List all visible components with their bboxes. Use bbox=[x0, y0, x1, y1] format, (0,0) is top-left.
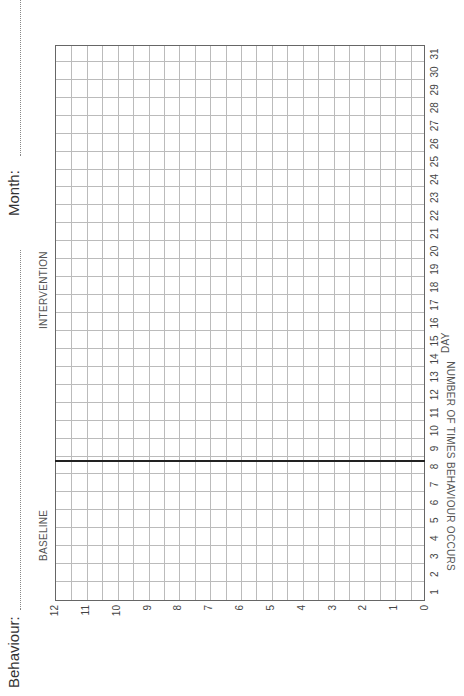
behaviour-chart-page: Behaviour: Month: BASELINE INTERVENTION … bbox=[0, 0, 464, 696]
grid-vline bbox=[56, 222, 424, 223]
grid-vline bbox=[56, 330, 424, 331]
grid-vline bbox=[56, 169, 424, 170]
behaviour-field[interactable] bbox=[20, 250, 21, 610]
grid-vline bbox=[56, 133, 424, 134]
x-tick-label: 21 bbox=[429, 224, 440, 242]
x-tick-label: 16 bbox=[429, 314, 440, 332]
chart-grid bbox=[55, 45, 425, 601]
x-tick-label: 29 bbox=[429, 81, 440, 99]
grid-hline bbox=[149, 46, 150, 600]
grid-vline bbox=[56, 473, 424, 474]
grid-hline bbox=[256, 46, 257, 600]
x-tick-label: 11 bbox=[429, 404, 440, 422]
grid-vline bbox=[56, 527, 424, 528]
grid-vline bbox=[56, 312, 424, 313]
grid-vline bbox=[56, 581, 424, 582]
x-tick-label: 20 bbox=[429, 242, 440, 260]
x-tick-label: 10 bbox=[429, 422, 440, 440]
grid-hline bbox=[287, 46, 288, 600]
y-tick-label: 10 bbox=[111, 605, 122, 621]
x-tick-label: 6 bbox=[429, 493, 440, 511]
grid-vline bbox=[56, 151, 424, 152]
grid-vline bbox=[56, 276, 424, 277]
month-label: Month: bbox=[5, 170, 22, 216]
grid-hline bbox=[179, 46, 180, 600]
y-tick-label: 8 bbox=[172, 605, 183, 621]
grid-vline bbox=[56, 240, 424, 241]
grid-hline bbox=[71, 46, 72, 600]
baseline-label: BASELINE bbox=[38, 510, 49, 561]
x-tick-label: 27 bbox=[429, 117, 440, 135]
grid-hline bbox=[303, 46, 304, 600]
grid-hline bbox=[411, 46, 412, 600]
grid-hline bbox=[102, 46, 103, 600]
grid-hline bbox=[87, 46, 88, 600]
grid-vline bbox=[56, 563, 424, 564]
x-tick-label: 28 bbox=[429, 99, 440, 117]
grid-hline bbox=[195, 46, 196, 600]
month-field[interactable] bbox=[20, 0, 21, 156]
grid-vline bbox=[56, 491, 424, 492]
grid-vline bbox=[56, 420, 424, 421]
y-axis-label: NUMBER OF TIMES BEHAVIOUR OCCURS bbox=[445, 361, 456, 571]
grid-vline bbox=[56, 456, 424, 457]
grid-vline bbox=[56, 79, 424, 80]
x-tick-label: 18 bbox=[429, 278, 440, 296]
phase-change-line bbox=[55, 460, 425, 462]
grid-hline bbox=[395, 46, 396, 600]
intervention-label: INTERVENTION bbox=[38, 251, 49, 329]
x-tick-label: 5 bbox=[429, 511, 440, 529]
grid-hline bbox=[364, 46, 365, 600]
grid-hline bbox=[241, 46, 242, 600]
grid-vline bbox=[56, 438, 424, 439]
x-tick-label: 12 bbox=[429, 386, 440, 404]
grid-vline bbox=[56, 97, 424, 98]
x-tick-label: 15 bbox=[429, 332, 440, 350]
grid-vline bbox=[56, 509, 424, 510]
y-tick-label: 2 bbox=[357, 605, 368, 621]
behaviour-label: Behaviour: bbox=[5, 616, 22, 688]
y-tick-label: 0 bbox=[419, 605, 430, 621]
x-tick-label: 26 bbox=[429, 135, 440, 153]
grid-hline bbox=[334, 46, 335, 600]
y-tick-label: 12 bbox=[49, 605, 60, 621]
grid-vline bbox=[56, 348, 424, 349]
x-tick-label: 30 bbox=[429, 63, 440, 81]
x-tick-label: 8 bbox=[429, 457, 440, 475]
grid-vline bbox=[56, 545, 424, 546]
grid-vline bbox=[56, 366, 424, 367]
x-tick-label: 4 bbox=[429, 529, 440, 547]
x-tick-label: 24 bbox=[429, 171, 440, 189]
grid-hline bbox=[133, 46, 134, 600]
x-tick-label: 31 bbox=[429, 45, 440, 63]
x-axis-label: DAY bbox=[440, 332, 451, 353]
x-tick-label: 19 bbox=[429, 260, 440, 278]
y-tick-label: 9 bbox=[142, 605, 153, 621]
grid-vline bbox=[56, 294, 424, 295]
grid-hline bbox=[118, 46, 119, 600]
grid-vline bbox=[56, 61, 424, 62]
grid-vline bbox=[56, 402, 424, 403]
grid-vline bbox=[56, 186, 424, 187]
x-tick-label: 9 bbox=[429, 440, 440, 458]
x-tick-label: 3 bbox=[429, 547, 440, 565]
grid-hline bbox=[226, 46, 227, 600]
grid-hline bbox=[380, 46, 381, 600]
grid-vline bbox=[56, 384, 424, 385]
x-tick-label: 7 bbox=[429, 475, 440, 493]
x-tick-label: 23 bbox=[429, 188, 440, 206]
x-tick-label: 25 bbox=[429, 153, 440, 171]
y-tick-label: 7 bbox=[203, 605, 214, 621]
grid-hline bbox=[164, 46, 165, 600]
x-tick-label: 14 bbox=[429, 350, 440, 368]
grid-vline bbox=[56, 115, 424, 116]
y-tick-label: 6 bbox=[234, 605, 245, 621]
y-tick-label: 3 bbox=[327, 605, 338, 621]
y-tick-label: 4 bbox=[296, 605, 307, 621]
y-tick-label: 5 bbox=[265, 605, 276, 621]
grid-hline bbox=[349, 46, 350, 600]
grid-hline bbox=[318, 46, 319, 600]
x-tick-label: 2 bbox=[429, 565, 440, 583]
x-tick-label: 1 bbox=[429, 583, 440, 601]
x-tick-label: 22 bbox=[429, 206, 440, 224]
